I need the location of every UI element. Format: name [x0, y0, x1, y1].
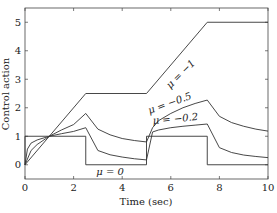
x-tick-label: 4: [119, 182, 125, 193]
series-line-3: [25, 136, 268, 165]
y-axis-label: Control action: [0, 57, 11, 130]
y-tick-label: 5: [15, 17, 21, 28]
series-annotation: μ = −0.2: [152, 111, 198, 126]
series-annotation: μ = −1: [164, 57, 197, 90]
x-tick-label: 0: [22, 182, 28, 193]
series-annotation: μ = 0: [96, 166, 124, 177]
y-tick-label: 3: [15, 74, 21, 85]
series-lines: [25, 22, 268, 165]
x-tick-label: 10: [262, 182, 275, 193]
axis-ticks: 0246810012345: [15, 8, 275, 193]
control-action-chart: 0246810012345 μ = −1μ = −0.5μ = −0.2μ = …: [0, 0, 277, 213]
x-tick-label: 2: [70, 182, 76, 193]
series-annotations: μ = −1μ = −0.5μ = −0.2μ = 0: [96, 57, 198, 176]
x-tick-label: 6: [168, 182, 174, 193]
y-tick-label: 4: [15, 45, 21, 56]
y-tick-label: 1: [15, 131, 21, 142]
y-tick-label: 0: [15, 159, 21, 170]
x-tick-label: 8: [216, 182, 222, 193]
y-tick-label: 2: [15, 102, 21, 113]
x-axis-label: Time (sec): [120, 196, 173, 207]
